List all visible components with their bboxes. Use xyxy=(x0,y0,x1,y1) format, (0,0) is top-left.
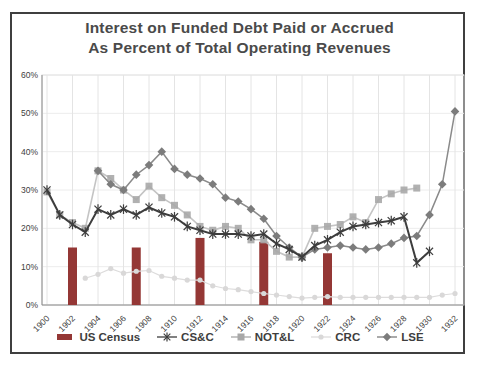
legend-label: US Census xyxy=(79,331,140,343)
legend: US Census CS&C NOT&L CRC LSE xyxy=(12,331,467,343)
us-census-bar xyxy=(68,248,77,306)
chart-title-line1: Interest on Funded Debt Paid or Accrued xyxy=(12,18,467,38)
bar-swatch-icon xyxy=(55,331,75,343)
legend-item-crc[interactable]: CRC xyxy=(311,331,360,343)
y-axis-label: 50% xyxy=(21,108,38,118)
series-line-notl xyxy=(47,171,417,257)
legend-item-notl[interactable]: NOT&L xyxy=(231,331,295,343)
series-line-crc xyxy=(85,269,455,299)
legend-label: LSE xyxy=(401,331,423,343)
asterisk-marker-icon xyxy=(157,331,177,343)
legend-label: CRC xyxy=(335,331,360,343)
circle-marker-icon xyxy=(311,331,331,343)
y-axis-label: 10% xyxy=(21,262,38,272)
legend-label: NOT&L xyxy=(255,331,295,343)
y-axis-label: 60% xyxy=(21,70,38,80)
y-axis-label: 0% xyxy=(26,300,39,310)
chart-page: Interest on Funded Debt Paid or Accrued … xyxy=(0,0,479,370)
legend-label: CS&C xyxy=(181,331,214,343)
y-axis-label: 30% xyxy=(21,185,38,195)
square-marker-icon xyxy=(231,331,251,343)
chart-title-line2: As Percent of Total Operating Revenues xyxy=(12,38,467,58)
us-census-bar xyxy=(132,248,141,306)
diamond-marker-icon xyxy=(377,331,397,343)
chart-title: Interest on Funded Debt Paid or Accrued … xyxy=(12,18,467,58)
y-axis-label: 20% xyxy=(21,223,38,233)
legend-item-lse[interactable]: LSE xyxy=(377,331,423,343)
us-census-bar xyxy=(196,238,205,305)
legend-item-csc[interactable]: CS&C xyxy=(157,331,214,343)
legend-item-us-census[interactable]: US Census xyxy=(55,331,140,343)
y-axis-label: 40% xyxy=(21,147,38,157)
